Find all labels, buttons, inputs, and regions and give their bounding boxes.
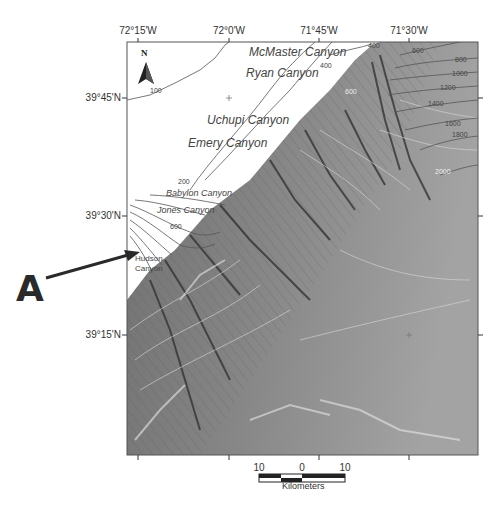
contour-label: 600 [170,223,182,230]
north-label: N [141,48,148,58]
scale-tick-label: 0 [299,462,305,473]
north-arrow-icon [138,62,154,84]
lon-tick-label: 71°45'W [300,25,338,36]
contour-label: 100 [150,87,162,94]
lon-tick-label: 72°15'W [119,25,157,36]
canyon-label-babylon: Babylon Canyon [166,188,232,198]
contour-label: 1600 [445,120,461,127]
contour-label: 600 [412,47,424,54]
canyon-label-emery: Emery Canyon [188,136,267,150]
contour-label: 1800 [452,131,468,138]
lat-tick-label: 39°45'N [86,92,121,103]
contour-label: 600 [345,88,357,95]
contour-label: 400 [368,42,380,49]
annotation-arrow-icon [46,250,140,278]
scale-tick-label: 10 [339,462,350,473]
contour-label: 400 [320,62,332,69]
annotation-label-a: A [16,268,44,309]
contour-label: 200 [178,178,190,185]
scale-unit-label: Kilometers [282,481,325,491]
lon-tick-label: 71°30'W [390,25,428,36]
lat-tick-label: 39°15'N [86,329,121,340]
canyon-label-jones: Jones Canyon [157,205,215,215]
contour-label: 400 [210,196,222,203]
canyon-label-hudson-2: Canyon [135,264,163,273]
scale-tick-label: 10 [253,462,264,473]
lon-tick-label: 72°0'W [213,25,245,36]
contour-label: 800 [455,56,467,63]
lat-tick-label: 39°30'N [86,210,121,221]
canyon-label-hudson-1: Hudson [135,254,163,263]
contour-label: 1000 [452,70,468,77]
canyon-label-ryan: Ryan Canyon [246,66,319,80]
contour-label: 2000 [435,168,451,175]
contour-label: 1400 [428,100,444,107]
canyon-label-uchupi: Uchupi Canyon [207,113,289,127]
canyon-label-mcmaster: McMaster Canyon [249,45,346,59]
contour-label: 1200 [440,84,456,91]
